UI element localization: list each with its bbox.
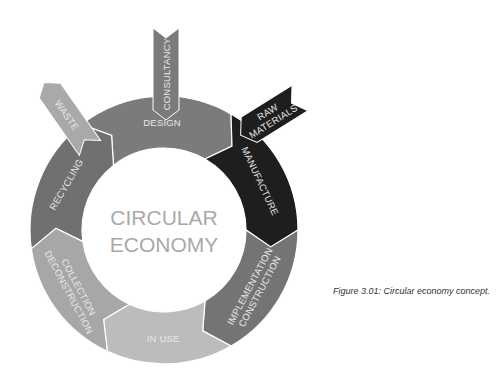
segment-label-text: IN USE [147,333,180,344]
circular-economy-diagram: CONSULTANCYRAWMATERIALSWASTE DESIGNMANUF… [0,0,496,384]
arrow-label-text: CONSULTANCY [161,37,172,110]
center-label-line1: CIRCULAR [110,206,217,229]
label-in-use: IN USE [147,333,180,344]
center-label-line2: ECONOMY [110,233,219,256]
label-design: DESIGN [143,117,181,128]
arrow-consultancy: CONSULTANCY [153,28,179,120]
figure-caption: Figure 3.01: Circular economy concept. [333,286,490,296]
segment-label-text: DESIGN [143,117,181,128]
